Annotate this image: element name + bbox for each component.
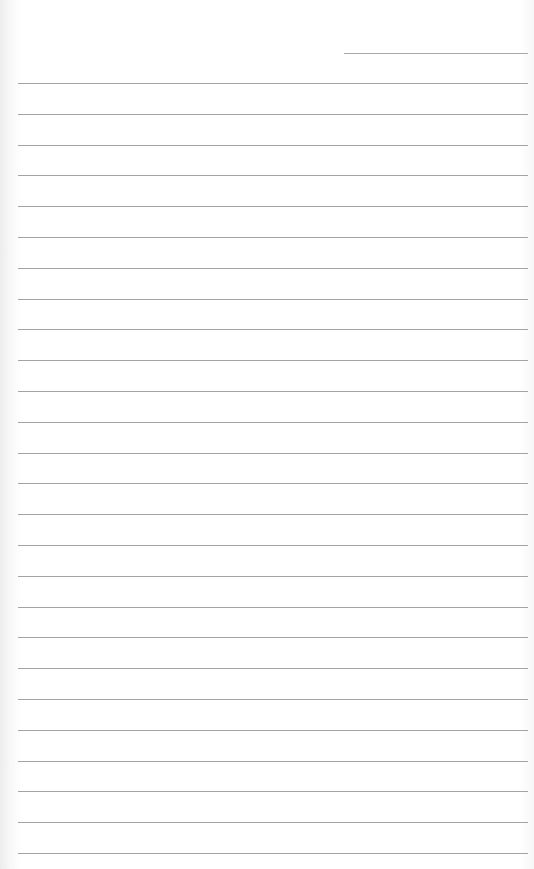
ruled-line xyxy=(18,607,528,608)
ruled-line xyxy=(18,637,528,638)
notepaper-page xyxy=(0,0,534,869)
ruled-line xyxy=(18,175,528,176)
ruled-line xyxy=(18,761,528,762)
ruled-line xyxy=(18,145,528,146)
ruled-line xyxy=(18,545,528,546)
ruled-line xyxy=(18,422,528,423)
ruled-line xyxy=(18,576,528,577)
ruled-line xyxy=(18,483,528,484)
ruled-line xyxy=(18,699,528,700)
ruled-line xyxy=(18,299,528,300)
ruled-line xyxy=(18,329,528,330)
ruled-line xyxy=(18,206,528,207)
ruled-line xyxy=(18,268,528,269)
ruled-line xyxy=(18,391,528,392)
ruled-line xyxy=(18,360,528,361)
ruled-line xyxy=(18,668,528,669)
ruled-line xyxy=(18,514,528,515)
ruled-line xyxy=(18,453,528,454)
ruled-line xyxy=(18,791,528,792)
ruled-line xyxy=(18,853,528,854)
ruled-line xyxy=(18,114,528,115)
ruled-line xyxy=(18,730,528,731)
ruled-line xyxy=(18,822,528,823)
ruled-line xyxy=(18,83,528,84)
date-line xyxy=(344,53,528,54)
ruled-line xyxy=(18,237,528,238)
